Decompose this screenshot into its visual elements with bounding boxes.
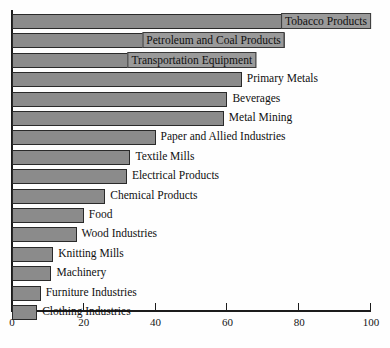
bar-label: Transportation Equipment (127, 52, 256, 68)
bar-row: Machinery (0, 266, 390, 285)
bar-label: Clothing Industries (37, 304, 134, 320)
bar-row: Beverages (0, 92, 390, 111)
bar (12, 286, 41, 301)
bar-row: Transportation Equipment (0, 53, 390, 72)
bar-row: Tobacco Products (0, 14, 390, 33)
bar-row: Knitting Mills (0, 247, 390, 266)
bar-label: Petroleum and Coal Products (142, 32, 284, 48)
bar-row: Furniture Industries (0, 286, 390, 305)
bar-label: Furniture Industries (41, 285, 140, 301)
bar (12, 130, 156, 145)
bar-row: Paper and Allied Industries (0, 130, 390, 149)
bar (12, 208, 84, 223)
bar (12, 150, 130, 165)
bar-label: Tobacco Products (281, 13, 371, 29)
bar-label: Metal Mining (224, 110, 296, 126)
bar-row: Metal Mining (0, 111, 390, 130)
bar-label: Food (84, 207, 116, 223)
bar (12, 266, 51, 281)
bar-label: Chemical Products (105, 188, 200, 204)
bar (12, 305, 37, 320)
plot-area: 020406080100 Tobacco ProductsPetroleum a… (0, 0, 390, 348)
bar-row: Petroleum and Coal Products (0, 33, 390, 52)
bar-label: Machinery (51, 265, 109, 281)
bar-row: Textile Mills (0, 150, 390, 169)
bar-row: Clothing Industries (0, 305, 390, 324)
bar (12, 247, 53, 262)
bar (12, 189, 105, 204)
bar-label: Wood Industries (77, 226, 160, 242)
bar-label: Electrical Products (127, 168, 222, 184)
bar (12, 227, 77, 242)
bar (12, 92, 227, 107)
bar-label: Primary Metals (242, 71, 321, 87)
bar-row: Electrical Products (0, 169, 390, 188)
bar-row: Wood Industries (0, 227, 390, 246)
bar-label: Paper and Allied Industries (156, 129, 289, 145)
bar-label: Beverages (227, 91, 283, 107)
bar-row: Chemical Products (0, 189, 390, 208)
bar (12, 169, 127, 184)
bar-row: Food (0, 208, 390, 227)
bar (12, 111, 224, 126)
bar-label: Knitting Mills (53, 246, 127, 262)
bar-row: Primary Metals (0, 72, 390, 91)
bar-label: Textile Mills (130, 149, 197, 165)
bar-chart-figure: 020406080100 Tobacco ProductsPetroleum a… (0, 0, 390, 348)
bar (12, 72, 242, 87)
